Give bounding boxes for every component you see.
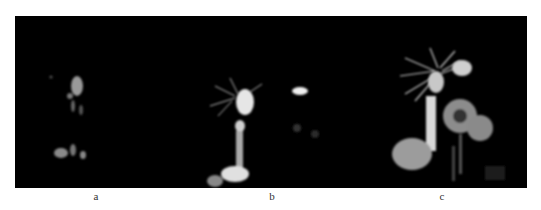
panel-c-label: c — [432, 190, 452, 202]
panel-a-image — [15, 16, 180, 188]
figure-composite — [15, 16, 527, 188]
mri-image-a — [15, 16, 180, 188]
panel-b-image — [180, 16, 360, 188]
panel-b-label: b — [262, 190, 282, 202]
mri-image-c — [360, 16, 527, 188]
panel-c-image — [360, 16, 527, 188]
mri-image-b — [180, 16, 360, 188]
panel-a-label: a — [86, 190, 106, 202]
